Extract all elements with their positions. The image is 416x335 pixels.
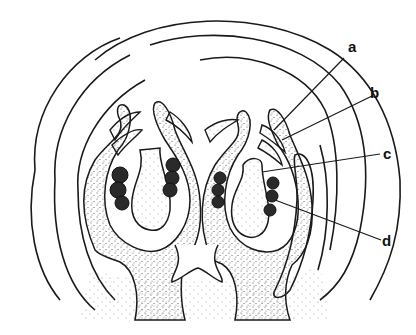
label-b: b <box>370 84 379 101</box>
right-column <box>232 159 269 238</box>
label-c: c <box>383 145 391 162</box>
label-d: d <box>382 232 391 249</box>
base-tissue <box>80 265 330 320</box>
label-a: a <box>348 38 356 55</box>
leaflets <box>110 112 285 165</box>
diagram: a b c d <box>0 0 416 335</box>
central-notch <box>172 245 222 282</box>
